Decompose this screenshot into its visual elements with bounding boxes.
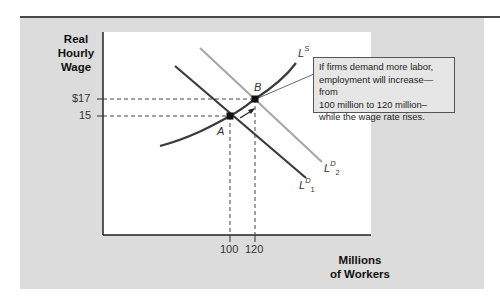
supply-curve-label: LS [298, 45, 309, 59]
callout-line-1: If firms demand more labor, [319, 61, 449, 74]
supply-sup: S [304, 44, 309, 53]
callout-leader [256, 74, 314, 99]
y-label-line-2: Hourly [46, 46, 106, 60]
point-a-marker [227, 113, 234, 120]
x-tick-label-100: 100 [220, 243, 238, 255]
callout-line-4: while the wage rate rises. [319, 111, 449, 124]
x-label-line-1: Millions [300, 253, 420, 267]
demand-2-label: LD2 [324, 160, 340, 177]
x-axis-label: Millions of Workers [300, 253, 420, 281]
x-tick-label-120: 120 [245, 243, 263, 255]
point-b-label: B [254, 81, 261, 93]
point-a-label: A [217, 125, 224, 137]
x-label-line-2: of Workers [300, 267, 420, 281]
demand-curve-2 [200, 48, 322, 162]
point-b-marker [252, 96, 259, 103]
annotation-callout: If firms demand more labor, employment w… [313, 57, 455, 113]
callout-line-3: 100 million to 120 million– [319, 99, 449, 112]
y-label-line-1: Real [46, 32, 106, 46]
demand-curve-1 [175, 66, 306, 178]
demand-2-sub: 2 [336, 168, 340, 177]
y-tick-label-17: $17 [72, 92, 90, 104]
y-axis-label: Real Hourly Wage [46, 32, 106, 74]
demand-2-sup: D [330, 159, 335, 168]
demand-1-sup: D [305, 176, 310, 185]
demand-1-sub: 1 [311, 185, 315, 194]
y-tick-label-15: 15 [79, 109, 91, 121]
demand-1-label: LD1 [299, 177, 315, 194]
y-label-line-3: Wage [46, 60, 106, 74]
callout-line-2: employment will increase—from [319, 74, 449, 99]
